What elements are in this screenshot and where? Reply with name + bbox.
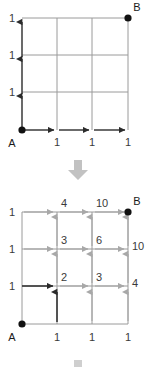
highlighted-dark-arrows	[22, 286, 57, 322]
arrow-down-clipped-icon	[74, 360, 82, 367]
label-left-1-top: 1	[9, 12, 15, 24]
label-left-1-bottom: 1	[9, 206, 15, 218]
label-bottom-3-top: 1	[125, 136, 131, 148]
node-value-r1-c3: 4	[132, 277, 138, 289]
node-value-r3-c1: 4	[61, 197, 67, 209]
label-A-bottom: A	[8, 331, 16, 343]
gray-right-arrows	[24, 212, 124, 286]
label-bottom-2-bottom: 1	[89, 331, 95, 343]
label-B-top: B	[133, 1, 140, 13]
node-value-r3-c2: 10	[96, 197, 108, 209]
label-left-3-bottom: 1	[9, 280, 15, 292]
diagram-stage: 1 1 1 1 1 1 A B	[0, 0, 157, 367]
gray-up-arrows	[57, 217, 128, 321]
node-value-r2-c2: 6	[96, 234, 102, 246]
node-B-dot-bottom	[124, 208, 131, 215]
label-bottom-1-bottom: 1	[54, 331, 60, 343]
node-value-r2-c1: 3	[61, 234, 67, 246]
node-value-r2-c3: 10	[132, 240, 144, 252]
label-left-2-bottom: 1	[9, 243, 15, 255]
grid-lines-bottom	[22, 212, 128, 324]
label-bottom-2-top: 1	[89, 136, 95, 148]
bottom-panel-filled-grid: 1 1 1 1 1 1 4 10 3 6 10 2 3 4 A B	[0, 182, 157, 352]
arrow-down-icon	[68, 160, 88, 180]
grid-lines	[22, 18, 128, 130]
label-bottom-1-top: 1	[54, 136, 60, 148]
label-left-2-top: 1	[9, 49, 15, 61]
node-value-r1-c2: 3	[96, 271, 102, 283]
node-A-dot-bottom	[18, 320, 25, 327]
label-left-3-top: 1	[9, 86, 15, 98]
node-value-r1-c1: 2	[61, 271, 67, 283]
separator-arrow-container	[0, 158, 157, 182]
tail-arrow-container	[0, 352, 157, 367]
top-panel-base-grid: 1 1 1 1 1 1 A B	[0, 0, 157, 158]
node-B-dot-top	[124, 14, 131, 21]
node-A-dot-top	[18, 126, 25, 133]
label-bottom-3-bottom: 1	[125, 331, 131, 343]
label-B-bottom: B	[133, 195, 140, 207]
label-A-top: A	[8, 137, 16, 149]
